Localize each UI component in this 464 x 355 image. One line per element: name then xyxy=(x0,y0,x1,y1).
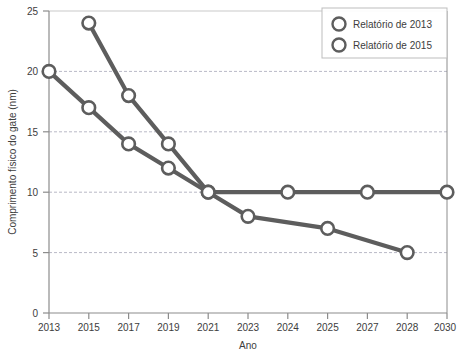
x-tick-label-2017: 2017 xyxy=(117,322,140,333)
data-point-marker xyxy=(43,65,56,78)
data-point-marker xyxy=(202,186,215,199)
x-axis-ticks xyxy=(49,313,447,319)
legend-label-relatorio-2015: Relatório de 2015 xyxy=(353,40,432,51)
data-point-marker xyxy=(162,162,175,175)
data-point-marker xyxy=(401,246,414,259)
y-tick-label-10: 10 xyxy=(27,187,39,198)
data-point-marker xyxy=(122,89,135,102)
x-axis-title: Ano xyxy=(239,340,257,351)
circle-outline-icon xyxy=(333,18,346,31)
gate-length-line-chart: 25 20 15 10 5 0 Comprimento físico do ga… xyxy=(0,0,464,355)
chart-canvas: 25 20 15 10 5 0 Comprimento físico do ga… xyxy=(0,0,464,355)
data-point-marker xyxy=(162,138,175,151)
x-tick-label-2024: 2024 xyxy=(277,322,300,333)
y-tick-label-0: 0 xyxy=(32,308,38,319)
x-tick-label-2028: 2028 xyxy=(396,322,419,333)
data-point-marker xyxy=(122,138,135,151)
y-tick-label-15: 15 xyxy=(27,127,39,138)
y-tick-label-5: 5 xyxy=(32,248,38,259)
y-tick-label-25: 25 xyxy=(27,6,39,17)
data-point-marker xyxy=(321,222,334,235)
x-tick-label-2023: 2023 xyxy=(237,322,260,333)
data-point-marker xyxy=(83,17,96,30)
y-tick-label-20: 20 xyxy=(27,66,39,77)
y-axis-title: Comprimento físico do gate (nm) xyxy=(7,89,18,235)
data-point-marker xyxy=(441,186,454,199)
circle-outline-icon xyxy=(333,39,346,52)
data-point-marker xyxy=(361,186,374,199)
data-point-marker xyxy=(83,101,96,114)
x-tick-label-2021: 2021 xyxy=(197,322,220,333)
y-axis-ticks xyxy=(43,11,49,313)
data-point-marker xyxy=(282,186,295,199)
x-tick-label-2030: 2030 xyxy=(434,322,457,333)
legend-label-relatorio-2013: Relatório de 2013 xyxy=(353,19,432,30)
x-tick-label-2019: 2019 xyxy=(157,322,180,333)
data-point-marker xyxy=(242,210,255,223)
x-tick-label-2025: 2025 xyxy=(316,322,339,333)
x-tick-label-2027: 2027 xyxy=(356,322,379,333)
chart-legend: Relatório de 2013 Relatório de 2015 xyxy=(322,8,447,58)
x-tick-label-2013: 2013 xyxy=(38,322,61,333)
x-tick-label-2015: 2015 xyxy=(78,322,101,333)
